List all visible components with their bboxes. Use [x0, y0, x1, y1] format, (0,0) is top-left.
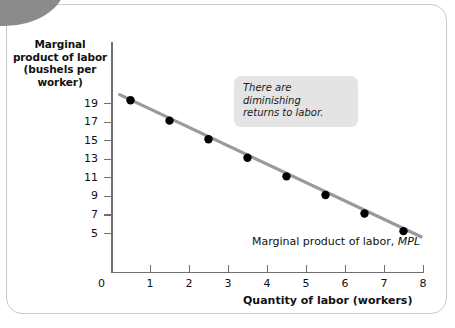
callout-line-2: returns to labor. [243, 107, 323, 118]
curve-label-abbrev: MPL [398, 235, 420, 248]
diminishing-returns-callout: There are diminishing returns to labor. [234, 76, 358, 127]
data-point [360, 209, 368, 217]
data-point [165, 116, 173, 124]
callout-line-1: There are diminishing [243, 82, 301, 106]
curve-label: Marginal product of labor, MPL [252, 235, 420, 248]
curve-label-text: Marginal product of labor, [252, 235, 394, 248]
data-point [321, 191, 329, 199]
figure-container: Marginal product of labor (bushels per w… [0, 0, 455, 328]
data-point [126, 96, 134, 104]
data-point [243, 154, 251, 162]
data-point [282, 172, 290, 180]
data-point [204, 135, 212, 143]
x-axis-title: Quantity of labor (workers) [243, 294, 412, 307]
mpl-series-plot [0, 0, 455, 328]
